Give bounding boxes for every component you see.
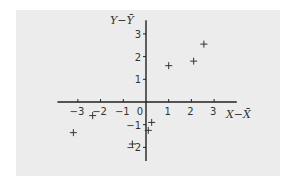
x-tick-label: 3 bbox=[210, 106, 216, 117]
y-axis-title: Y−Ȳ bbox=[110, 14, 135, 27]
x-axis-title: X−X̄ bbox=[225, 108, 252, 121]
y-tick-label: −1 bbox=[126, 120, 141, 131]
x-tick-label: 0 bbox=[137, 106, 143, 117]
scatter-plot: −3−2−10123−2−1123 X−X̄ Y−Ȳ bbox=[0, 0, 282, 184]
y-tick-label: 1 bbox=[135, 74, 141, 85]
x-tick-label: 2 bbox=[187, 106, 193, 117]
x-tick-label: 1 bbox=[165, 106, 171, 117]
data-point-plus-icon bbox=[148, 119, 155, 126]
data-point-plus-icon bbox=[190, 58, 197, 65]
x-tick-label: −1 bbox=[115, 106, 130, 117]
data-point-plus-icon bbox=[70, 129, 77, 136]
y-tick-label: 3 bbox=[135, 29, 141, 40]
y-tick-label: 2 bbox=[135, 52, 141, 63]
data-point-plus-icon bbox=[165, 62, 172, 69]
axes: −3−2−10123−2−1123 bbox=[57, 20, 236, 161]
x-tick-label: −3 bbox=[70, 106, 85, 117]
data-point-plus-icon bbox=[200, 41, 207, 48]
